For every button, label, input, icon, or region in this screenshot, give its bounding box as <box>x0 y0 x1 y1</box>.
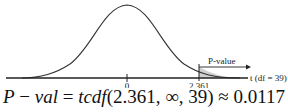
formula-val: val <box>35 86 58 107</box>
pvalue-formula: P − val = tcdf(2.361, ∞, 39) ≈ 0.0117 <box>0 86 288 108</box>
arrow-head-icon <box>246 65 251 70</box>
formula-result: 0.0117 <box>234 86 286 107</box>
formula-args: (2.361, ∞, 39) <box>107 86 214 107</box>
pvalue-label: P-value <box>208 56 236 66</box>
formula-p: P <box>3 86 15 107</box>
formula-minus: − <box>15 86 35 107</box>
formula-approx: ≈ <box>214 86 234 107</box>
formula-equals: = <box>58 86 78 107</box>
t-distribution-chart: P-value t (df = 39) 0 2.361 <box>0 0 288 88</box>
axis-label: t (df = 39) <box>250 73 287 83</box>
formula-func: tcdf <box>78 86 107 107</box>
